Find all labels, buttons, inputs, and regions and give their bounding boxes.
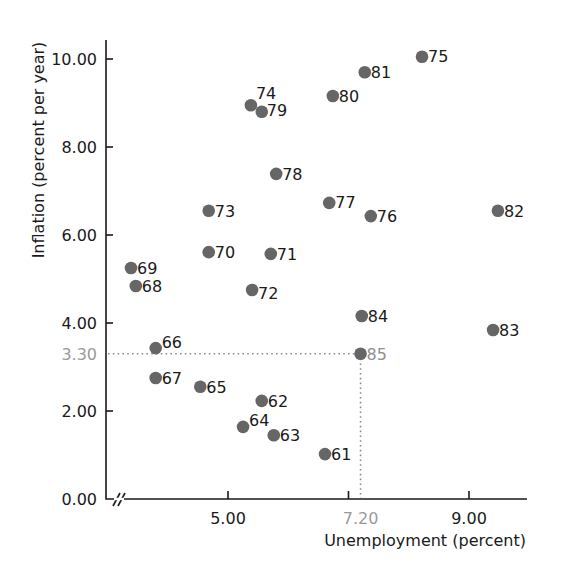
y-tick-label: 3.30: [61, 345, 97, 364]
axis-lines: [106, 40, 527, 499]
point-marker: [149, 342, 162, 355]
y-tick-label: 0.00: [61, 490, 97, 509]
data-point-72: 72: [246, 284, 279, 303]
point-label: 63: [280, 426, 300, 445]
axes: [106, 40, 527, 506]
data-points: 6162636465666768697071727374757677787980…: [125, 47, 525, 464]
point-label: 69: [137, 259, 157, 278]
point-marker: [125, 262, 138, 275]
point-label: 76: [377, 207, 397, 226]
point-marker: [327, 90, 340, 103]
point-marker: [202, 246, 215, 259]
data-point-75: 75: [416, 47, 449, 66]
point-marker: [246, 284, 259, 297]
point-marker: [354, 348, 367, 361]
point-label: 71: [277, 245, 297, 264]
point-marker: [255, 395, 268, 408]
data-point-73: 73: [202, 202, 235, 221]
data-point-63: 63: [267, 426, 300, 445]
axis-break-icon: [113, 493, 125, 506]
x-tick-label: 7.20: [343, 509, 379, 528]
y-axis-title: Inflation (percent per year): [29, 42, 48, 259]
point-label: 84: [368, 307, 388, 326]
point-label: 73: [215, 202, 235, 221]
point-label: 79: [267, 101, 287, 120]
point-label: 64: [249, 411, 269, 430]
point-label: 66: [162, 333, 182, 352]
point-marker: [194, 381, 207, 394]
point-marker: [130, 280, 143, 293]
point-marker: [492, 205, 505, 218]
point-label: 75: [428, 47, 448, 66]
point-marker: [202, 205, 215, 218]
point-label: 81: [371, 63, 391, 82]
point-marker: [358, 66, 371, 79]
x-tick-label: 9.00: [451, 509, 487, 528]
data-point-61: 61: [319, 445, 352, 464]
y-tick-label: 2.00: [61, 402, 97, 421]
point-label: 65: [206, 378, 226, 397]
point-label: 72: [258, 284, 278, 303]
inflation-unemployment-scatter-chart: 0.002.003.304.006.008.0010.00 5.007.209.…: [0, 0, 563, 574]
data-point-65: 65: [194, 378, 227, 397]
point-label: 77: [335, 193, 355, 212]
point-label: 80: [339, 87, 359, 106]
data-point-77: 77: [323, 193, 356, 212]
x-tick-label: 5.00: [210, 509, 246, 528]
point-marker: [323, 197, 336, 210]
data-point-83: 83: [487, 321, 520, 340]
point-marker: [487, 324, 500, 337]
data-point-78: 78: [270, 165, 303, 184]
point-marker: [416, 51, 429, 64]
data-point-68: 68: [130, 277, 163, 296]
data-point-80: 80: [327, 87, 360, 106]
data-point-69: 69: [125, 259, 158, 278]
point-marker: [267, 429, 280, 442]
data-point-76: 76: [364, 207, 397, 226]
point-marker: [364, 210, 377, 223]
data-point-71: 71: [264, 245, 297, 264]
data-point-84: 84: [355, 307, 388, 326]
point-label: 82: [504, 202, 524, 221]
point-marker: [264, 248, 277, 261]
data-point-82: 82: [492, 202, 525, 221]
point-marker: [319, 448, 332, 461]
data-point-66: 66: [149, 333, 182, 354]
x-axis-title: Unemployment (percent): [324, 531, 526, 550]
data-point-81: 81: [358, 63, 391, 82]
y-tick-label: 10.00: [51, 50, 97, 69]
point-marker: [237, 421, 250, 434]
y-axis-ticks: 0.002.003.304.006.008.0010.00: [51, 50, 113, 509]
y-tick-label: 4.00: [61, 314, 97, 333]
y-tick-label: 8.00: [61, 138, 97, 157]
point-label: 78: [282, 165, 302, 184]
data-point-79: 79: [255, 101, 287, 120]
point-label: 62: [268, 392, 288, 411]
data-point-85: 85: [354, 345, 387, 364]
x-axis-ticks: 5.007.209.00: [210, 491, 487, 528]
point-label: 68: [142, 277, 162, 296]
point-label: 85: [367, 345, 387, 364]
data-point-70: 70: [202, 243, 235, 262]
point-label: 70: [215, 243, 235, 262]
y-tick-label: 6.00: [61, 226, 97, 245]
guide-lines: [108, 354, 361, 498]
point-marker: [355, 310, 368, 323]
point-marker: [149, 372, 162, 385]
data-point-62: 62: [255, 392, 288, 411]
point-label: 61: [331, 445, 351, 464]
point-label: 83: [499, 321, 519, 340]
data-point-67: 67: [149, 369, 182, 388]
point-marker: [270, 168, 283, 181]
point-label: 67: [162, 369, 182, 388]
data-point-64: 64: [237, 411, 270, 433]
